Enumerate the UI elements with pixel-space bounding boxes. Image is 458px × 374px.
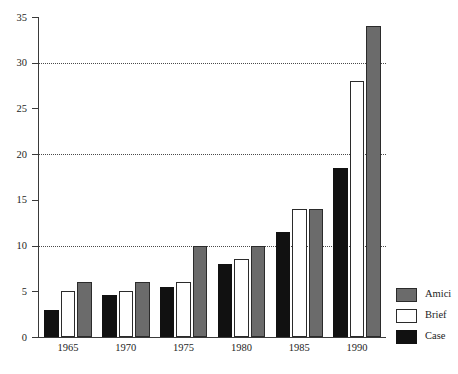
y-tick-mark	[32, 63, 39, 64]
y-tick-5: 5	[32, 291, 39, 292]
x-axis-line	[38, 337, 386, 338]
y-tick-label: 5	[22, 287, 27, 298]
y-tick-label: 10	[17, 241, 28, 252]
bar-brief-1985	[292, 209, 307, 337]
bar-case-1970	[102, 295, 117, 337]
y-tick-label: 15	[17, 195, 28, 206]
bar-amici-1980	[251, 246, 266, 337]
y-tick-mark	[32, 108, 39, 109]
y-tick-mark	[32, 17, 39, 18]
legend-swatch-brief	[396, 309, 417, 323]
y-tick-mark	[32, 154, 39, 155]
legend-swatch-case	[396, 330, 417, 344]
bar-case-1965	[44, 310, 59, 337]
bar-brief-1965	[61, 291, 76, 337]
y-tick-25: 25	[32, 108, 39, 109]
y-tick-label: 25	[17, 104, 28, 115]
chart-legend: AmiciBriefCase	[396, 286, 451, 349]
y-tick-label: 30	[17, 58, 28, 69]
bar-amici-1975	[193, 246, 208, 337]
x-tick-label-1970: 1970	[115, 343, 136, 354]
y-tick-label: 35	[17, 12, 28, 23]
bar-case-1980	[218, 264, 233, 337]
y-tick-mark	[32, 246, 39, 247]
bar-amici-1970	[135, 282, 150, 337]
x-tick-label-1985: 1985	[289, 343, 310, 354]
y-tick-mark	[32, 200, 39, 201]
legend-label-amici: Amici	[425, 289, 451, 300]
bar-case-1990	[333, 168, 348, 337]
bar-amici-1990	[366, 26, 381, 337]
x-tick-label-1965: 1965	[57, 343, 78, 354]
bar-brief-1975	[176, 282, 191, 337]
bar-case-1985	[276, 232, 291, 337]
y-tick-20: 20	[32, 154, 39, 155]
y-tick-mark	[32, 337, 39, 338]
legend-item-case: Case	[396, 328, 451, 345]
legend-item-brief: Brief	[396, 307, 451, 324]
bar-brief-1990	[350, 81, 365, 337]
bar-amici-1965	[77, 282, 92, 337]
bar-brief-1980	[234, 259, 249, 337]
x-tick-label-1975: 1975	[173, 343, 194, 354]
x-tick-label-1980: 1980	[231, 343, 252, 354]
y-tick-15: 15	[32, 200, 39, 201]
y-tick-35: 35	[32, 17, 39, 18]
legend-label-brief: Brief	[425, 310, 447, 321]
legend-label-case: Case	[425, 331, 445, 342]
y-tick-10: 10	[32, 246, 39, 247]
y-tick-label: 0	[22, 332, 27, 343]
bars-layer	[39, 17, 386, 337]
bar-case-1975	[160, 287, 175, 337]
y-tick-0: 0	[32, 337, 39, 338]
bar-brief-1970	[119, 291, 134, 337]
x-tick-label-1990: 1990	[347, 343, 368, 354]
bar-chart: 05101520253035 196519701975198019851990 …	[0, 0, 458, 374]
y-tick-label: 20	[17, 149, 28, 160]
y-tick-30: 30	[32, 63, 39, 64]
y-tick-mark	[32, 291, 39, 292]
legend-swatch-amici	[396, 288, 417, 302]
legend-item-amici: Amici	[396, 286, 451, 303]
bar-amici-1985	[309, 209, 324, 337]
